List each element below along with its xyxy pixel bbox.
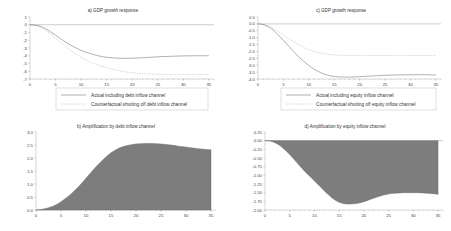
- svg-text:5: 5: [60, 213, 63, 218]
- svg-text:-3.0: -3.0: [248, 63, 256, 68]
- panel-d-y-ticklabels: 0.250.00-0.25-0.50-0.75-1.00-1.25-1.50-1…: [252, 130, 265, 213]
- svg-text:0: 0: [25, 22, 28, 27]
- svg-text:2.5: 2.5: [27, 143, 34, 148]
- panel-a-legend: Actual including debt inflow channel Cou…: [56, 88, 208, 110]
- svg-text:2.0: 2.0: [27, 156, 34, 161]
- svg-text:35: 35: [436, 213, 441, 218]
- panel-c-title: c) GDP growth response: [316, 8, 367, 13]
- svg-text:10: 10: [306, 82, 311, 87]
- svg-text:-4: -4: [23, 53, 27, 58]
- svg-text:30: 30: [411, 213, 416, 218]
- svg-text:0.25: 0.25: [254, 130, 263, 135]
- svg-text:1.0: 1.0: [27, 182, 34, 187]
- svg-text:-1: -1: [23, 30, 27, 35]
- panel-c-legend-label-counterfactual: Counterfactual shutting off equity inflo…: [316, 102, 415, 107]
- svg-text:35: 35: [434, 82, 439, 87]
- svg-text:0.0: 0.0: [27, 208, 34, 213]
- svg-text:-1.25: -1.25: [252, 182, 262, 187]
- svg-text:-1.50: -1.50: [252, 190, 262, 195]
- svg-text:15: 15: [332, 82, 337, 87]
- svg-text:30: 30: [181, 82, 186, 87]
- svg-text:5: 5: [54, 82, 57, 87]
- panel-c-series-counterfactual: [258, 24, 436, 56]
- svg-text:1: 1: [25, 15, 28, 20]
- svg-text:20: 20: [134, 213, 139, 218]
- panel-c-axes: [258, 17, 441, 79]
- svg-text:0: 0: [35, 213, 38, 218]
- svg-text:10: 10: [312, 213, 317, 218]
- svg-text:-0.50: -0.50: [252, 156, 262, 161]
- svg-text:20: 20: [357, 82, 362, 87]
- panel-d-title: d) Amplification by equity inflow channe…: [304, 124, 385, 129]
- svg-text:20: 20: [130, 82, 135, 87]
- svg-text:5: 5: [282, 82, 285, 87]
- chart-panel-c-gdp-growth-response-equity: c) GDP growth response 0.50.0-0.5-1.0-1.…: [225, 0, 451, 116]
- svg-text:-7: -7: [23, 77, 27, 82]
- panel-a-series-actual: [30, 25, 209, 59]
- svg-text:-3: -3: [23, 46, 27, 51]
- panel-b-x-ticklabels: 05101520253035: [35, 210, 216, 218]
- svg-text:25: 25: [159, 213, 164, 218]
- svg-text:-1.75: -1.75: [252, 199, 262, 204]
- panel-c-legend: Actual including equity inflow channel C…: [281, 88, 436, 110]
- chart-panel-a-gdp-growth-response-debt: a) GDP growth response 10-1-2-3-4-5-6-7 …: [0, 0, 226, 116]
- panel-d-area-amplification: [265, 141, 438, 204]
- panel-b-area-amplification: [36, 143, 211, 210]
- svg-text:35: 35: [209, 213, 214, 218]
- svg-text:-2.00: -2.00: [252, 208, 262, 213]
- svg-text:0.00: 0.00: [254, 138, 263, 143]
- panel-c-series-actual: [258, 24, 436, 77]
- svg-text:-4.0: -4.0: [248, 77, 256, 82]
- svg-text:-0.75: -0.75: [252, 164, 262, 169]
- svg-text:-0.25: -0.25: [252, 147, 262, 152]
- svg-text:-2.0: -2.0: [248, 49, 256, 54]
- panel-a-y-ticklabels: 10-1-2-3-4-5-6-7: [23, 15, 30, 82]
- svg-text:15: 15: [109, 213, 114, 218]
- svg-text:-2.5: -2.5: [248, 56, 256, 61]
- svg-text:0: 0: [264, 213, 267, 218]
- svg-text:-1.5: -1.5: [248, 42, 256, 47]
- svg-text:5: 5: [289, 213, 292, 218]
- svg-text:-1.00: -1.00: [252, 173, 262, 178]
- svg-text:-0.5: -0.5: [248, 28, 256, 33]
- panel-a-series-counterfactual: [30, 25, 209, 75]
- panel-d-x-ticklabels: 05101520253035: [264, 210, 443, 218]
- svg-text:0.5: 0.5: [27, 195, 34, 200]
- svg-text:0: 0: [29, 82, 32, 87]
- panel-b-y-ticklabels: 0.00.51.01.52.02.53.0: [27, 130, 36, 213]
- svg-text:30: 30: [184, 213, 189, 218]
- panel-c-x-ticklabels: 05101520253035: [257, 79, 441, 87]
- svg-text:10: 10: [79, 82, 84, 87]
- figure-four-panel-impulse-responses: a) GDP growth response 10-1-2-3-4-5-6-7 …: [0, 0, 451, 231]
- svg-text:35: 35: [206, 82, 211, 87]
- svg-text:-5: -5: [23, 61, 27, 66]
- panel-b-title: b) Amplification by debt inflow channel: [77, 124, 155, 129]
- panel-a-x-ticklabels: 05101520253035: [29, 79, 214, 87]
- svg-text:15: 15: [337, 213, 342, 218]
- panel-c-y-ticklabels: 0.50.0-0.5-1.0-1.5-2.0-2.5-3.0-3.5-4.0: [248, 15, 258, 82]
- svg-text:-2: -2: [23, 38, 27, 43]
- panel-a-axes: [30, 17, 214, 79]
- svg-text:-1.0: -1.0: [248, 35, 256, 40]
- panel-a-title: a) GDP growth response: [88, 8, 139, 13]
- svg-text:-6: -6: [23, 69, 27, 74]
- svg-text:25: 25: [155, 82, 160, 87]
- svg-text:0.0: 0.0: [249, 21, 256, 26]
- svg-text:0.5: 0.5: [249, 15, 256, 20]
- svg-text:25: 25: [386, 213, 391, 218]
- svg-text:25: 25: [383, 82, 388, 87]
- svg-text:-3.5: -3.5: [248, 70, 256, 75]
- chart-panel-b-amplification-debt: b) Amplification by debt inflow channel …: [0, 116, 226, 231]
- chart-panel-d-amplification-equity: d) Amplification by equity inflow channe…: [225, 116, 451, 231]
- svg-text:10: 10: [84, 213, 89, 218]
- svg-text:15: 15: [104, 82, 109, 87]
- panel-a-svg: a) GDP growth response 10-1-2-3-4-5-6-7 …: [0, 0, 226, 116]
- svg-text:20: 20: [361, 213, 366, 218]
- svg-text:3.0: 3.0: [27, 130, 34, 135]
- svg-text:1.5: 1.5: [27, 169, 34, 174]
- panel-c-legend-label-actual: Actual including equity inflow channel: [316, 93, 394, 98]
- svg-text:0: 0: [257, 82, 260, 87]
- panel-c-svg: c) GDP growth response 0.50.0-0.5-1.0-1.…: [225, 0, 451, 116]
- svg-text:30: 30: [408, 82, 413, 87]
- panel-b-svg: b) Amplification by debt inflow channel …: [0, 116, 226, 231]
